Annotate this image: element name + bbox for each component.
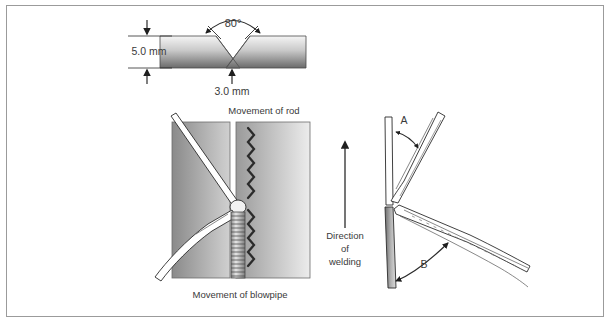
- direction-label-line3: welding: [328, 256, 361, 267]
- angle-a-label: A: [400, 114, 407, 126]
- joint-cross-section: 80° 5.0 mm 3.0 mm: [128, 17, 306, 97]
- figure-root: 80° 5.0 mm 3.0 mm Movement of rod: [0, 0, 610, 323]
- angle-b-label: B: [420, 258, 427, 270]
- plan-right-plate: [236, 122, 310, 278]
- direction-label-line2: of: [341, 243, 349, 254]
- plan-view-top-label: Movement of rod: [228, 105, 299, 116]
- root-gap-label: 3.0 mm: [214, 85, 249, 97]
- welding-diagram: 80° 5.0 mm 3.0 mm Movement of rod: [0, 0, 610, 323]
- side-view: A B: [385, 112, 530, 288]
- side-filler-rod-seam-2: [400, 120, 441, 196]
- plan-view: Movement of rod: [155, 105, 310, 300]
- plan-view-bottom-label: Movement of blowpipe: [192, 289, 287, 300]
- angle-a-arc: [396, 132, 418, 148]
- side-plate-upper: [385, 117, 393, 205]
- direction-of-welding: Direction of welding: [326, 142, 364, 267]
- side-filler-rod: [391, 112, 445, 203]
- side-filler-rod-seam: [396, 118, 433, 189]
- included-angle-label: 80°: [225, 17, 242, 29]
- thickness-label: 5.0 mm: [131, 45, 166, 57]
- side-blowpipe-lower-edge: [400, 216, 528, 287]
- side-plate-lower: [385, 207, 396, 288]
- direction-label-line1: Direction: [326, 230, 364, 241]
